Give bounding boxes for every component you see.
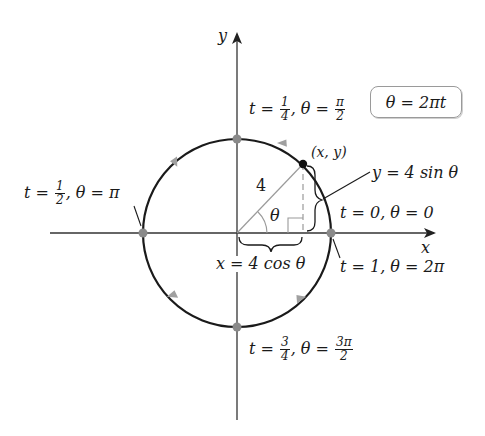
denominator: 2 — [55, 194, 65, 207]
numerator: 3π — [335, 336, 353, 350]
y-brace — [307, 166, 322, 231]
point-xy-label: (x, y) — [311, 145, 347, 159]
label-t1: t = 1, θ = 2π — [340, 259, 444, 275]
angle-label: θ — [270, 208, 280, 224]
denominator: 2 — [335, 110, 345, 123]
theta-equals: , θ = — [291, 339, 334, 358]
point-left — [139, 229, 148, 238]
right-end-leader — [333, 239, 340, 258]
fraction-t: 34 — [280, 336, 290, 362]
point-right — [327, 229, 336, 238]
angle-arc — [258, 212, 267, 233]
right-angle-marker — [288, 218, 303, 233]
denominator: 2 — [335, 350, 353, 363]
denominator: 4 — [280, 350, 290, 363]
fraction-t: 14 — [280, 96, 290, 122]
point-top — [233, 135, 242, 144]
denominator: 4 — [280, 110, 290, 123]
theta-equals: , θ = — [291, 99, 334, 118]
point-bottom — [233, 323, 242, 332]
parametric-circle-diagram: y x θ = 2πt (x, y) y = 4 sin θ 4 θ x = 4… — [0, 0, 485, 436]
x-brace — [239, 237, 302, 252]
label-bottom: t = 34, θ = 3π2 — [249, 336, 354, 362]
label-left: t = 12, θ = π — [24, 180, 120, 206]
label-t0: t = 0, θ = 0 — [340, 205, 434, 221]
equals: = — [30, 183, 54, 202]
point-xy — [299, 160, 307, 168]
equals: = — [255, 339, 279, 358]
numerator: 3 — [280, 336, 290, 350]
label-top: t = 14, θ = π2 — [249, 96, 346, 122]
numerator: 1 — [280, 96, 290, 110]
x-axis-label: x — [421, 240, 430, 256]
radius-label: 4 — [256, 178, 266, 194]
y-axis-label: y — [218, 28, 227, 44]
numerator: π — [335, 96, 345, 110]
x-expression: x = 4 cos θ — [215, 256, 306, 272]
fraction-t: 12 — [55, 180, 65, 206]
left-point-leader — [134, 206, 141, 226]
theta-equals: , θ = — [66, 183, 109, 202]
equals: = — [255, 99, 279, 118]
formula-box: θ = 2πt — [370, 86, 462, 118]
fraction-theta: π2 — [335, 96, 345, 122]
fraction-theta: 3π2 — [335, 336, 353, 362]
y-expression-leader — [323, 172, 370, 199]
numerator: 1 — [55, 180, 65, 194]
theta-value: π — [109, 183, 120, 202]
y-expression: y = 4 sin θ — [372, 165, 458, 181]
